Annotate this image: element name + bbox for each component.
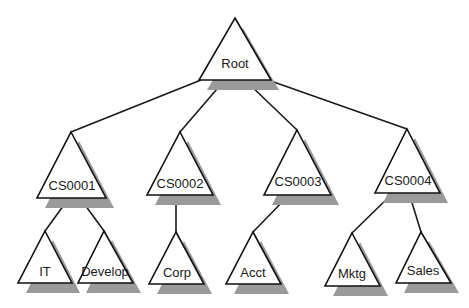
node-root[interactable]: Root: [199, 18, 279, 90]
node-cs0003[interactable]: CS0003: [264, 130, 339, 205]
node-label: Corp: [163, 265, 191, 280]
node-sales[interactable]: Sales: [396, 232, 459, 293]
node-mktg[interactable]: Mktg: [325, 233, 388, 296]
node-label: CS0001: [49, 178, 96, 193]
node-develop[interactable]: Develop: [78, 231, 141, 293]
node-label: Root: [221, 56, 249, 71]
node-label: CS0002: [157, 176, 204, 191]
node-corp[interactable]: Corp: [149, 232, 212, 294]
node-cs0004[interactable]: CS0004: [375, 129, 448, 203]
node-label: Mktg: [338, 266, 366, 281]
tree-diagram: Root CS0001 CS0002 CS0003 CS0004 IT Deve…: [0, 0, 469, 308]
node-label: Sales: [407, 263, 440, 278]
node-cs0001[interactable]: CS0001: [37, 132, 114, 208]
node-label: CS0003: [275, 174, 322, 189]
edge-root-cs0001: [71, 80, 201, 132]
node-label: Develop: [81, 264, 129, 279]
node-label: Acct: [240, 265, 266, 280]
node-acct[interactable]: Acct: [226, 232, 289, 294]
node-label: IT: [39, 264, 51, 279]
node-cs0002[interactable]: CS0002: [147, 132, 221, 205]
node-label: CS0004: [385, 173, 432, 188]
node-it[interactable]: IT: [18, 231, 80, 293]
edges: [45, 80, 421, 233]
